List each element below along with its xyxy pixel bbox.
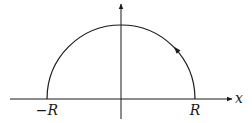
pos-r-label: R <box>189 102 201 118</box>
diagram-canvas: −R R x <box>0 0 252 123</box>
neg-r-label: −R <box>36 102 59 118</box>
contour-diagram: −R R x <box>0 0 252 123</box>
x-axis-label: x <box>235 90 243 106</box>
